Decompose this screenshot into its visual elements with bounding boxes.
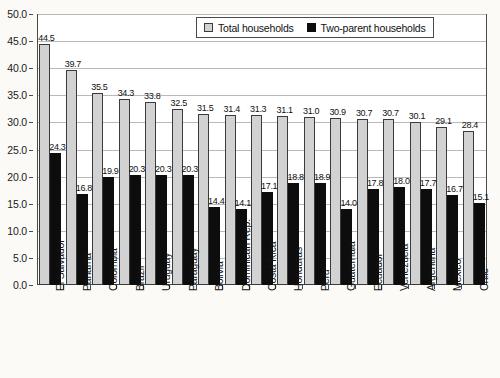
- bar-value-label-two-parent: 20.3: [129, 164, 145, 174]
- bar-total-households: [39, 44, 50, 285]
- bar-value-label-total: 31.4: [224, 104, 240, 114]
- bar-value-label-total: 30.9: [329, 107, 345, 117]
- legend-swatch-two-parent-icon: [307, 23, 316, 32]
- bar-value-label-total: 35.5: [91, 82, 107, 92]
- bar-total-households: [172, 109, 183, 285]
- legend-entry-two-parent: Two-parent households: [307, 22, 426, 34]
- y-tick-label: 20.0: [7, 171, 27, 183]
- bar-value-label-total: 32.5: [171, 98, 187, 108]
- bar-value-label-two-parent: 16.7: [446, 184, 462, 194]
- y-tick-mark: [29, 122, 33, 123]
- x-category-label: Mexico: [451, 259, 463, 291]
- bar-value-label-total: 30.7: [356, 108, 372, 118]
- bar-value-label-total: 30.7: [382, 108, 398, 118]
- y-tick-mark: [29, 285, 33, 286]
- y-axis: 0.05.010.015.020.025.030.035.040.045.050…: [0, 14, 33, 285]
- bar-value-label-total: 31.3: [250, 104, 266, 114]
- y-tick-label: 5.0: [13, 252, 27, 264]
- bar-value-label-two-parent: 14.4: [208, 196, 224, 206]
- y-tick-mark: [29, 14, 33, 15]
- x-category-label: Honduras: [292, 247, 304, 291]
- bar-total-households: [92, 93, 103, 285]
- y-tick-mark: [29, 68, 33, 69]
- bar-value-label-two-parent: 17.8: [367, 178, 383, 188]
- bar-total-households: [463, 131, 474, 285]
- bar-value-label-total: 33.8: [144, 91, 160, 101]
- x-category-label: Brazil: [134, 266, 146, 291]
- x-category-label: Costa Rica: [266, 242, 278, 291]
- x-axis-labels: El SalvadorPanamaColombiaBrazilUruguayPa…: [37, 289, 487, 377]
- bar-value-label-two-parent: 14.0: [340, 198, 356, 208]
- y-tick-label: 40.0: [7, 62, 27, 74]
- legend-swatch-total-icon: [204, 23, 213, 32]
- y-tick-label: 15.0: [7, 198, 27, 210]
- bar-total-households: [383, 119, 394, 285]
- bar-value-label-total: 31.5: [197, 103, 213, 113]
- bar-total-households: [251, 115, 262, 285]
- bar-value-label-two-parent: 24.3: [49, 142, 65, 152]
- x-category-label: Chile: [478, 268, 490, 291]
- bars-layer: 44.524.339.716.835.519.934.320.333.820.3…: [37, 14, 487, 285]
- x-category-label: Dominican Rep.: [240, 219, 252, 291]
- x-category-label: Panama: [81, 253, 93, 291]
- x-category-label: Bolivia: [213, 261, 225, 291]
- x-category-label: Uruguay: [160, 253, 172, 291]
- y-tick-mark: [29, 95, 33, 96]
- y-tick-label: 50.0: [7, 8, 27, 20]
- y-tick-label: 35.0: [7, 89, 27, 101]
- y-tick-mark: [29, 177, 33, 178]
- x-category-label: Guatemala: [345, 241, 357, 291]
- chart-legend: Total households Two-parent households: [196, 17, 434, 38]
- bar-value-label-two-parent: 15.1: [473, 192, 489, 202]
- bar-value-label-two-parent: 19.9: [102, 166, 118, 176]
- y-tick-label: 10.0: [7, 225, 27, 237]
- y-tick-label: 45.0: [7, 35, 27, 47]
- bar-total-households: [410, 122, 421, 285]
- bar-value-label-two-parent: 20.3: [155, 164, 171, 174]
- x-category-label: Peru: [319, 270, 331, 291]
- bar-value-label-total: 34.3: [118, 88, 134, 98]
- bar-total-households: [145, 102, 156, 285]
- bar-value-label-two-parent: 16.8: [76, 183, 92, 193]
- bar-value-label-total: 31.1: [276, 105, 292, 115]
- bar-value-label-total: 30.1: [409, 111, 425, 121]
- bar-value-label-two-parent: 14.1: [235, 198, 251, 208]
- y-tick-mark: [29, 258, 33, 259]
- x-category-label: Venezuela: [398, 244, 410, 291]
- legend-label-total: Total households: [218, 22, 294, 34]
- bar-total-households: [119, 99, 130, 285]
- bar-value-label-total: 31.0: [303, 106, 319, 116]
- bar-value-label-two-parent: 18.8: [287, 172, 303, 182]
- x-category-label: Colombia: [107, 248, 119, 291]
- bar-value-label-two-parent: 20.3: [182, 164, 198, 174]
- x-category-label: Argentina: [425, 248, 437, 291]
- bar-total-households: [436, 127, 447, 285]
- bar-total-households: [304, 117, 315, 285]
- bar-value-label-two-parent: 17.1: [261, 181, 277, 191]
- bar-value-label-two-parent: 18.0: [393, 176, 409, 186]
- y-tick-label: 30.0: [7, 116, 27, 128]
- bar-total-households: [66, 70, 77, 285]
- bar-value-label-total: 44.5: [38, 33, 54, 43]
- y-tick-label: 0.0: [13, 279, 27, 291]
- bar-total-households: [277, 116, 288, 285]
- y-tick-mark: [29, 41, 33, 42]
- bar-value-label-total: 29.1: [435, 116, 451, 126]
- y-tick-mark: [29, 204, 33, 205]
- chart-page: 0.05.010.015.020.025.030.035.040.045.050…: [0, 0, 500, 378]
- x-category-label: El Salvador: [54, 240, 66, 292]
- legend-label-two-parent: Two-parent households: [321, 22, 426, 34]
- x-category-label: Paraguay: [187, 248, 199, 291]
- y-tick-label: 25.0: [7, 144, 27, 156]
- bar-value-label-two-parent: 18.9: [314, 172, 330, 182]
- bar-total-households: [357, 119, 368, 285]
- x-category-label: Ecuador: [372, 253, 384, 291]
- y-tick-mark: [29, 150, 33, 151]
- bar-value-label-total: 28.4: [462, 120, 478, 130]
- legend-entry-total: Total households: [204, 22, 294, 34]
- bar-value-label-total: 39.7: [65, 59, 81, 69]
- y-tick-mark: [29, 231, 33, 232]
- bar-value-label-two-parent: 17.7: [420, 178, 436, 188]
